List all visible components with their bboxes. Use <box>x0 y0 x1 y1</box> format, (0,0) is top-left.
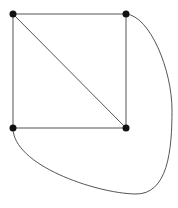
graph-diagram <box>0 0 178 208</box>
edge-a-d <box>13 14 126 128</box>
node-c <box>10 125 17 132</box>
edges <box>13 14 172 194</box>
node-b <box>123 11 130 18</box>
node-d <box>123 125 130 132</box>
node-a <box>10 11 17 18</box>
edge-b-c-curved <box>13 14 172 194</box>
